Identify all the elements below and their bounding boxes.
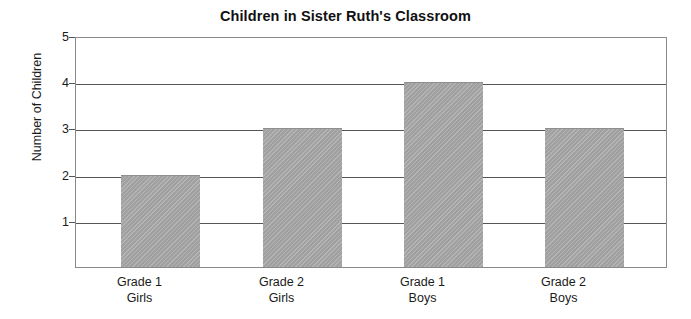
bar-grade-1-girls xyxy=(121,175,200,267)
x-label-line2: Girls xyxy=(207,290,357,306)
bar-grade-2-boys xyxy=(545,128,624,267)
bar-chart-figure: Children in Sister Ruth's Classroom Numb… xyxy=(0,0,691,319)
y-tick-label-3: 3 xyxy=(29,122,69,136)
x-label-line1: Grade 2 xyxy=(259,275,304,289)
x-label-grade-1-girls: Grade 1 Girls xyxy=(65,274,215,306)
plot-area xyxy=(75,37,667,268)
x-label-line1: Grade 1 xyxy=(400,275,445,289)
y-tick-label-1: 1 xyxy=(29,215,69,229)
x-label-grade-1-boys: Grade 1 Boys xyxy=(348,274,498,306)
gridline-value-4 xyxy=(76,84,666,85)
x-label-line2: Boys xyxy=(489,290,639,306)
y-axis-title: Number of Children xyxy=(30,37,44,177)
bar-grade-2-girls xyxy=(263,128,342,267)
x-label-grade-2-girls: Grade 2 Girls xyxy=(207,274,357,306)
y-tick-label-4: 4 xyxy=(29,76,69,90)
x-label-line1: Grade 2 xyxy=(541,275,586,289)
y-tick-label-5: 5 xyxy=(29,30,69,44)
x-label-line2: Girls xyxy=(65,290,215,306)
x-label-grade-2-boys: Grade 2 Boys xyxy=(489,274,639,306)
x-label-line1: Grade 1 xyxy=(117,275,162,289)
chart-title: Children in Sister Ruth's Classroom xyxy=(0,8,691,24)
x-label-line2: Boys xyxy=(348,290,498,306)
bar-grade-1-boys xyxy=(404,82,483,267)
y-tick-label-2: 2 xyxy=(29,169,69,183)
